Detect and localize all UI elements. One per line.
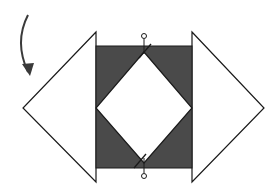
- diagram-canvas: [0, 0, 276, 192]
- right-triangle: [192, 32, 264, 182]
- top-marker-circle-icon: [142, 34, 147, 39]
- folding-diagram: [0, 0, 276, 192]
- curved-arrow-icon: [21, 15, 34, 76]
- bottom-marker-circle-icon: [142, 174, 147, 179]
- left-triangle: [23, 32, 96, 182]
